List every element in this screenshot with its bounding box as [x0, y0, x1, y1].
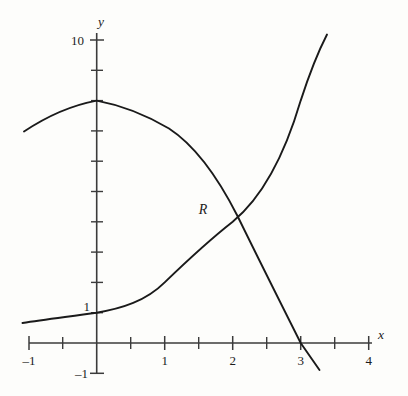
- y-tick-label-10: 10: [71, 33, 84, 48]
- function-plot-figure: x y –1 1 2 3 4 10 1 –1 R: [0, 0, 408, 396]
- y-tick-label-1: 1: [84, 299, 91, 314]
- curve-downward-parabola: [24, 101, 320, 370]
- x-axis-label: x: [377, 327, 384, 342]
- y-tick-label-neg-1: –1: [74, 366, 88, 381]
- x-tick-label-2: 2: [229, 353, 236, 368]
- curve-rising-exponential: [23, 35, 328, 324]
- x-tick-label-4: 4: [365, 353, 372, 368]
- curves-group: [23, 35, 328, 371]
- x-tick-label-1: 1: [161, 353, 168, 368]
- region-label-R: R: [198, 202, 208, 217]
- x-tick-label-3: 3: [297, 353, 304, 368]
- y-axis-label: y: [96, 14, 104, 29]
- x-tick-label-neg-1: –1: [22, 353, 36, 368]
- plot-canvas: x y –1 1 2 3 4 10 1 –1 R: [0, 0, 408, 396]
